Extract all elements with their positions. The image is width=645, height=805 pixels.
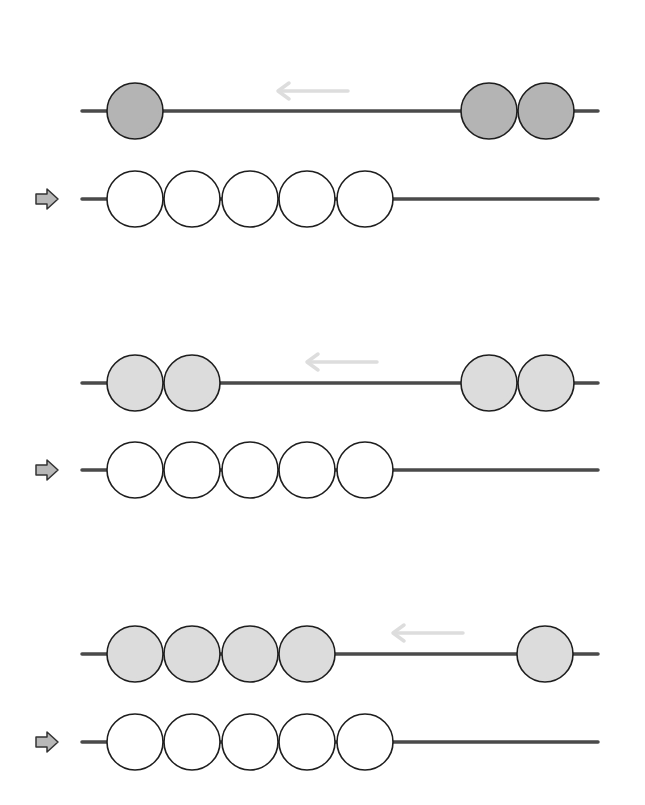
move-left-arrow-icon [278, 83, 348, 99]
bead[interactable] [514, 351, 586, 423]
exercise-1 [36, 79, 598, 239]
move-left-arrow-icon [307, 354, 377, 370]
bead[interactable] [160, 351, 232, 423]
bead[interactable] [103, 79, 175, 151]
bead[interactable] [333, 710, 405, 782]
bead[interactable] [160, 167, 232, 239]
move-left-arrow-icon [393, 625, 463, 641]
bead[interactable] [514, 79, 586, 151]
top-rod-3 [82, 622, 598, 694]
bead[interactable] [513, 622, 585, 694]
bottom-rod-3 [36, 710, 598, 782]
bead[interactable] [275, 167, 347, 239]
pointer-arrow-icon [36, 732, 58, 752]
bead[interactable] [160, 622, 232, 694]
pointer-arrow-icon [36, 189, 58, 209]
pointer-arrow-icon [36, 460, 58, 480]
abacus-diagram [0, 0, 645, 805]
top-rod-2 [82, 351, 598, 423]
bead[interactable] [275, 622, 347, 694]
bottom-rod-1 [36, 167, 598, 239]
bead[interactable] [275, 438, 347, 510]
bead[interactable] [160, 438, 232, 510]
bottom-rod-2 [36, 438, 598, 510]
exercise-3 [36, 622, 598, 782]
bead[interactable] [275, 710, 347, 782]
bead[interactable] [333, 167, 405, 239]
exercise-2 [36, 351, 598, 510]
bead[interactable] [333, 438, 405, 510]
top-rod-1 [82, 79, 598, 151]
bead[interactable] [160, 710, 232, 782]
